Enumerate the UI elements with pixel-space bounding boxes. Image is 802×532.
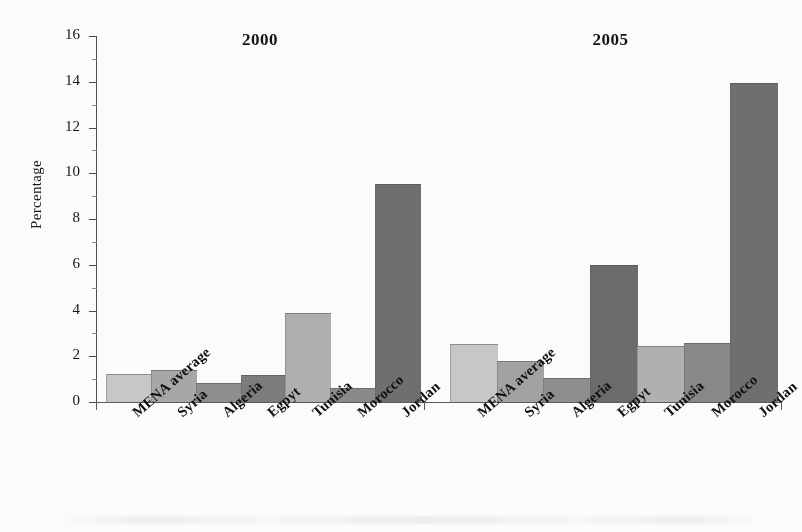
y-tick-label-0: 0 xyxy=(28,392,80,409)
y-tick-label-10: 10 xyxy=(28,163,80,180)
y-tick-label-16: 16 xyxy=(28,26,80,43)
panel-2005: 2005 MENA averageSyriaAlgeriaEgpytTunisi… xyxy=(440,0,781,532)
scan-artifact xyxy=(60,516,760,524)
y-tick-label-14: 14 xyxy=(28,72,80,89)
bar-group-2000 xyxy=(96,36,424,402)
y-tick-label-8: 8 xyxy=(28,209,80,226)
y-tick-label-6: 6 xyxy=(28,255,80,272)
y-axis-title: Percentage xyxy=(28,115,45,275)
bar-chart-figure: Percentage 0246810121416 2000 MENA avera… xyxy=(0,0,802,532)
y-tick-label-4: 4 xyxy=(28,301,80,318)
bar-2000-jordan xyxy=(375,184,421,402)
panel-2000: 2000 MENA averageSyriaAlgeriaEgpytTunisi… xyxy=(96,0,424,532)
y-tick-label-2: 2 xyxy=(28,346,80,363)
bar-2005-jordan xyxy=(730,83,778,402)
y-tick-label-12: 12 xyxy=(28,118,80,135)
bar-group-2005 xyxy=(440,36,781,402)
